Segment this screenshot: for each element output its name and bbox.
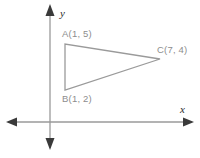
triangle-abc <box>65 44 160 90</box>
x-axis-label: x <box>179 103 185 115</box>
y-axis-down-arrowhead <box>46 138 55 150</box>
x-axis-right-arrowhead <box>183 118 194 127</box>
vertex-label-c: C(7, 4) <box>157 44 187 55</box>
x-axis-left-arrowhead <box>6 118 17 127</box>
vertex-label-b: B(1, 2) <box>62 93 92 104</box>
coordinate-geometry-figure: y x A(1, 5) B(1, 2) C(7, 4) <box>0 0 200 158</box>
vertex-label-a: A(1, 5) <box>62 28 92 39</box>
figure-canvas: y x A(1, 5) B(1, 2) C(7, 4) <box>0 0 200 158</box>
y-axis-up-arrowhead <box>46 4 55 16</box>
y-axis-label: y <box>59 7 65 19</box>
